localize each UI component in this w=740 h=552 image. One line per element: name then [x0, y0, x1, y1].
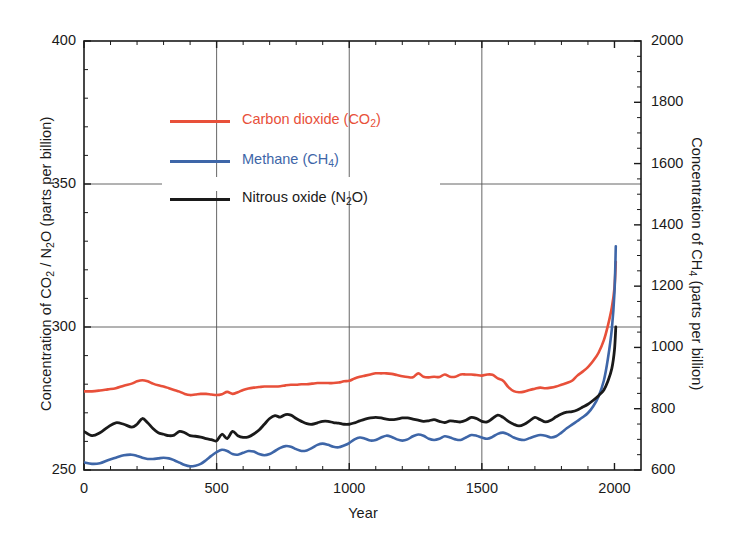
legend-color-swatch [170, 160, 230, 163]
legend-item-label: Nitrous oxide (N2O) [242, 189, 368, 207]
axis-frame [84, 41, 641, 470]
y-axis-right-tick-label: 1200 [651, 277, 711, 293]
x-axis-tick-label: 1500 [447, 480, 517, 496]
legend-item-label: Methane (CH4) [242, 151, 339, 169]
series-line-nitrous-oxide [84, 327, 616, 441]
greenhouse-gas-concentration-chart [0, 0, 740, 552]
y-axis-left-tick-label: 400 [16, 32, 76, 48]
chart-canvas [0, 0, 740, 552]
legend-item-label: Carbon dioxide (CO2) [242, 111, 381, 129]
x-axis-title: Year [84, 505, 642, 521]
legend-color-swatch [170, 198, 230, 201]
y-axis-left-tick-label: 300 [16, 318, 76, 334]
x-axis-tick-label: 1000 [314, 480, 384, 496]
y-axis-right-tick-label: 1000 [651, 338, 711, 354]
y-axis-right-tick-label: 2000 [651, 32, 711, 48]
y-axis-right-tick-label: 1800 [651, 93, 711, 109]
x-axis-tick-label: 500 [182, 480, 252, 496]
y-axis-right-tick-label: 1600 [651, 155, 711, 171]
x-axis-tick-label: 0 [49, 480, 119, 496]
y-axis-right-tick-label: 600 [651, 461, 711, 477]
y-axis-left-title: Concentration of CO2 / N2O (parts per bi… [38, 114, 56, 414]
x-axis-tick-label: 2000 [579, 480, 649, 496]
y-axis-right-tick-label: 1400 [651, 216, 711, 232]
legend-color-swatch [170, 120, 230, 123]
y-axis-right-tick-label: 800 [651, 400, 711, 416]
y-axis-left-tick-label: 250 [16, 461, 76, 477]
y-axis-left-tick-label: 350 [16, 175, 76, 191]
series-line-carbon-dioxide [84, 262, 616, 395]
